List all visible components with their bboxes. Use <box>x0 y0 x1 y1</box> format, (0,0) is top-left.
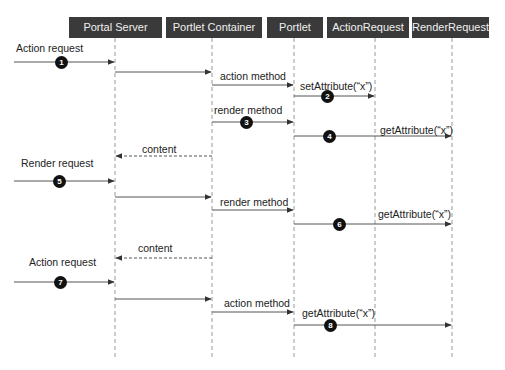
participant-portal-server: Portal Server <box>69 17 162 38</box>
step-number-badge: 1 <box>55 56 68 69</box>
step-number-badge: 2 <box>321 90 334 103</box>
step-number-badge: 5 <box>53 175 66 188</box>
participant-portlet-container: Portlet Container <box>166 17 262 38</box>
participant-portlet: Portlet <box>267 17 323 38</box>
message-label: render method <box>220 196 288 208</box>
message-label: getAttribute(“x”) <box>378 208 451 220</box>
message-label: render method <box>214 104 282 116</box>
message-label: action method <box>220 70 286 82</box>
sequence-diagram: Portal ServerPortlet ContainerPortletAct… <box>0 0 505 370</box>
message-label: getAttribute(“x”) <box>302 307 375 319</box>
message-label: content <box>142 143 176 155</box>
step-number-badge: 4 <box>323 130 336 143</box>
message-label: getAttribute(“x”) <box>380 124 453 136</box>
step-number-badge: 7 <box>54 276 67 289</box>
message-label: action method <box>224 297 290 309</box>
participant-action-request: ActionRequest <box>327 17 409 38</box>
step-number-badge: 8 <box>324 319 337 332</box>
diagram-lines <box>0 0 505 370</box>
message-label: Action request <box>29 256 96 268</box>
step-number-badge: 6 <box>333 218 346 231</box>
message-label: Action request <box>16 42 83 54</box>
step-number-badge: 3 <box>240 116 253 129</box>
message-label: setAttribute(“x”) <box>300 80 372 92</box>
message-label: content <box>138 242 172 254</box>
message-label: Render request <box>21 157 93 169</box>
participant-render-request: RenderRequest <box>412 17 489 38</box>
